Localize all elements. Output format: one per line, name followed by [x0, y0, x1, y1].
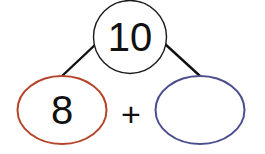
- number-bond-diagram: 10 8 +: [0, 0, 265, 154]
- part-left-value: 8: [51, 88, 73, 132]
- plus-operator: +: [121, 95, 141, 133]
- whole-node: 10: [94, 1, 167, 74]
- part-right-node[interactable]: [156, 76, 245, 144]
- whole-value: 10: [108, 15, 153, 59]
- connector-left: [62, 44, 96, 76]
- part-left-node: 8: [18, 76, 107, 144]
- connector-right: [165, 44, 200, 76]
- part-right-ellipse[interactable]: [156, 76, 245, 144]
